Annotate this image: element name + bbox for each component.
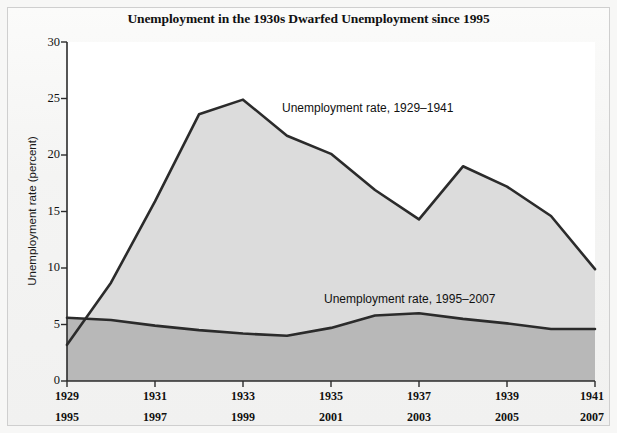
- chart-figure: Unemployment in the 1930s Dwarfed Unempl…: [0, 0, 617, 433]
- plot-area: [0, 0, 617, 433]
- x-axis-ticks: [67, 381, 595, 387]
- series-label-1995-2007: Unemployment rate, 1995–2007: [324, 292, 495, 306]
- y-axis-ticks: [61, 42, 67, 381]
- series-label-1929-1941: Unemployment rate, 1929–1941: [282, 101, 453, 115]
